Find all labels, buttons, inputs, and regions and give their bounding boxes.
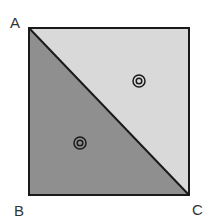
vertex-label-b: B — [14, 202, 24, 219]
vertex-label-a: A — [10, 14, 20, 31]
vertex-label-c: C — [192, 201, 203, 218]
diagram-canvas — [0, 0, 204, 221]
